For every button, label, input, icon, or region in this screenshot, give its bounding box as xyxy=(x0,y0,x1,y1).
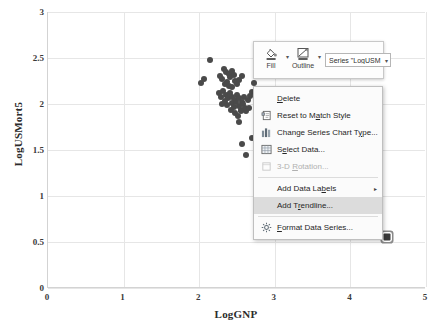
menu-separator xyxy=(258,216,378,217)
y-axis-tick-label: 2 xyxy=(4,99,44,109)
menu-item-reset-to-match-style[interactable]: Reset to Match Style xyxy=(254,107,382,124)
data-point[interactable] xyxy=(201,76,207,82)
outline-button-group[interactable]: Outline ▾ xyxy=(289,44,321,69)
menu-item-3-d-rotation: 3-D Rotation... xyxy=(254,158,382,175)
format-series-icon xyxy=(258,221,274,234)
menu-item-select-data[interactable]: Select Data... xyxy=(254,141,382,158)
y-axis-tick-label: 0.5 xyxy=(4,237,44,247)
menu-item-label: Change Series Chart Type... xyxy=(277,128,378,137)
data-point[interactable] xyxy=(251,80,257,86)
submenu-arrow-icon: ▸ xyxy=(374,185,377,192)
mini-floating-toolbar[interactable]: Fill ▾ Outline ▾ Series "LogUSM ▾ xyxy=(253,41,384,79)
data-point[interactable] xyxy=(239,73,245,79)
menu-item-label: Reset to Match Style xyxy=(277,111,351,120)
x-axis-tick-label: 2 xyxy=(183,292,213,302)
data-point[interactable] xyxy=(236,119,242,125)
reset-style-icon xyxy=(258,109,274,122)
excel-chart-screen: 00.511.522.53 012345 LogGNP LogUSMort5 F… xyxy=(0,0,437,334)
select-data-icon xyxy=(258,143,274,156)
y-axis-tick-label: 2.5 xyxy=(4,53,44,63)
gridline-horizontal xyxy=(48,242,425,243)
menu-item-add-trendline[interactable]: Add Trendline... xyxy=(254,197,382,214)
context-menu[interactable]: DeleteReset to Match StyleChange Series … xyxy=(253,86,383,240)
x-axis-tick-labels: 012345 xyxy=(47,292,425,306)
outline-button[interactable]: Outline xyxy=(289,44,317,69)
x-axis-tick-label: 1 xyxy=(108,292,138,302)
series-selector-dropdown[interactable]: Series "LogUSM ▾ xyxy=(325,53,391,67)
series-selector-chevron-down-icon[interactable]: ▾ xyxy=(385,57,388,64)
menu-item-delete[interactable]: Delete xyxy=(254,90,382,107)
data-point[interactable] xyxy=(207,57,213,63)
menu-item-format-data-series[interactable]: Format Data Series... xyxy=(254,219,382,236)
y-axis-title: LogUSMort5 xyxy=(12,74,24,194)
menu-separator xyxy=(258,177,378,178)
fill-button[interactable]: Fill xyxy=(257,44,285,69)
menu-item-label: Add Data Labels xyxy=(277,184,336,193)
gridline-vertical xyxy=(199,12,200,287)
gridline-horizontal xyxy=(48,288,425,289)
menu-item-icon-placeholder xyxy=(258,182,274,195)
menu-item-label: Delete xyxy=(277,94,300,103)
x-axis-tick-label: 0 xyxy=(32,292,62,302)
data-point-selected[interactable] xyxy=(383,234,390,241)
outline-button-label: Outline xyxy=(292,62,314,69)
menu-item-label: 3-D Rotation... xyxy=(277,162,329,171)
chart-type-icon xyxy=(258,126,274,139)
outline-chevron-down-icon[interactable]: ▾ xyxy=(318,53,321,60)
x-axis-tick-label: 3 xyxy=(259,292,289,302)
rotation-icon xyxy=(258,160,274,173)
menu-item-icon-placeholder xyxy=(258,92,274,105)
menu-item-label: Add Trendline... xyxy=(277,201,333,210)
y-axis-tick-label: 1.5 xyxy=(4,145,44,155)
y-axis-tick-label: 1 xyxy=(4,191,44,201)
pencil-outline-icon xyxy=(296,46,310,61)
gridline-vertical xyxy=(124,12,125,287)
x-axis-tick-label: 5 xyxy=(410,292,437,302)
gridline-vertical xyxy=(426,12,427,287)
menu-item-change-series-chart-type[interactable]: Change Series Chart Type... xyxy=(254,124,382,141)
data-point[interactable] xyxy=(246,105,252,111)
paint-bucket-icon xyxy=(264,46,278,61)
series-selector-value: Series "LogUSM xyxy=(329,57,381,64)
y-axis-tick-label: 3 xyxy=(4,7,44,17)
menu-item-add-data-labels[interactable]: Add Data Labels▸ xyxy=(254,180,382,197)
data-point[interactable] xyxy=(243,152,249,158)
menu-item-label: Format Data Series... xyxy=(277,223,353,232)
x-axis-tick-label: 4 xyxy=(334,292,364,302)
gridline-horizontal xyxy=(48,12,425,13)
fill-button-group[interactable]: Fill ▾ xyxy=(257,44,289,69)
fill-button-label: Fill xyxy=(267,62,276,69)
menu-item-icon-placeholder xyxy=(258,199,274,212)
x-axis-title: LogGNP xyxy=(47,308,425,320)
data-point[interactable] xyxy=(239,141,245,147)
menu-item-label: Select Data... xyxy=(277,145,325,154)
